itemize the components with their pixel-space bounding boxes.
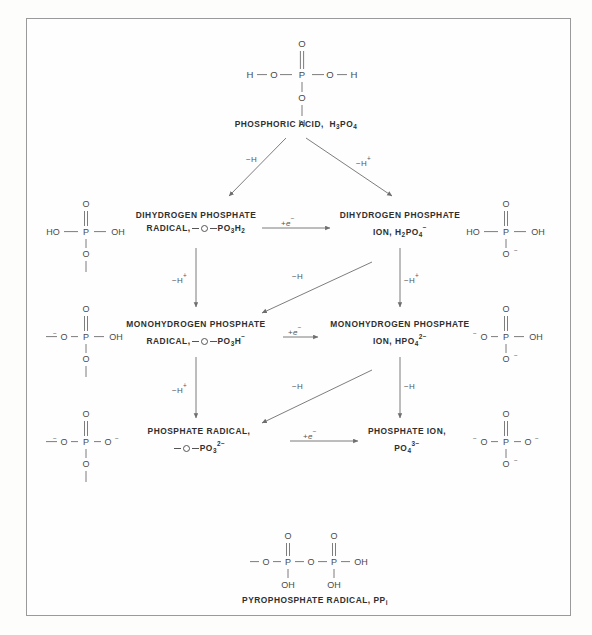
monohydrogen-radical-line2: RADICAL,	[147, 336, 191, 346]
atom-oh-left: HO	[46, 227, 60, 237]
atom-o-top: O	[502, 304, 509, 314]
edge-label-electron-row2: +e−	[288, 324, 302, 337]
label-monohydrogen-phosphate-ion: MONOHYDROGEN PHOSPHATE ION, HPO42−	[318, 318, 482, 350]
atom-o-top: O	[82, 199, 89, 209]
structure-dihydrogen-phosphate-radical: O P HO OH O	[42, 196, 134, 268]
label-dihydrogen-phosphate-ion: DIHYDROGEN PHOSPHATE ION, H2PO4−	[330, 209, 470, 241]
charge-bottom: −	[514, 247, 518, 254]
atom-p-center: P	[503, 437, 509, 447]
structure-monohydrogen-phosphate-ion: O P O − OH O −	[462, 301, 554, 367]
atom-oh-left: HO	[466, 227, 480, 237]
atom-o-right: O	[104, 437, 111, 447]
atom-p-left: P	[285, 557, 291, 567]
atom-p-center: P	[503, 227, 509, 237]
atom-o-left: O	[270, 69, 277, 80]
atom-o-left: O	[60, 437, 67, 447]
edge-label-electron-row3: +e−	[303, 428, 317, 441]
atom-o-right: O	[524, 437, 531, 447]
dihydrogen-radical-line1: DIHYDROGEN PHOSPHATE	[136, 210, 257, 220]
atom-o-bottom: O	[82, 249, 89, 259]
radical-dot-icon	[183, 445, 190, 452]
atom-h-right: H	[351, 69, 358, 80]
phosphoric-acid-formula: H3PO4	[327, 119, 358, 129]
edge-label-deprot-right-row1: −H+	[404, 272, 419, 285]
phosphate-ion-line1: PHOSPHATE ION,	[368, 426, 446, 436]
label-monohydrogen-phosphate-radical: MONOHYDROGEN PHOSPHATE RADICAL,PO3H−	[108, 318, 284, 350]
edge-label-top-left: −H	[246, 155, 257, 164]
label-phosphate-ion: PHOSPHATE ION, PO43−	[352, 425, 462, 457]
atom-p-center: P	[83, 437, 89, 447]
atom-o-bottom: O	[502, 249, 509, 259]
charge-left: −	[53, 435, 57, 442]
label-dihydrogen-phosphate-radical: DIHYDROGEN PHOSPHATE RADICAL,PO3H2	[116, 209, 276, 237]
label-phosphoric-acid: PHOSPHORIC ACID, H3PO4	[196, 118, 396, 134]
atom-o-bridge: O	[307, 557, 314, 567]
dihydrogen-ion-line2: ION,	[373, 227, 392, 237]
structure-dihydrogen-phosphate-ion: O P HO OH O −	[462, 196, 554, 262]
charge-left: −	[53, 330, 57, 337]
atom-oh-right: OH	[111, 227, 125, 237]
atom-oh-right: OH	[354, 557, 368, 567]
charge-right: −	[115, 435, 119, 442]
atom-p-center: P	[83, 227, 89, 237]
structure-pyrophosphate-radical: O P O OH O O P OH OH	[250, 528, 380, 598]
atom-o-term-left: O	[262, 557, 269, 567]
charge-left: −	[473, 330, 477, 337]
edge-label-electron-row1: +e−	[281, 215, 295, 228]
atom-o-top: O	[82, 304, 89, 314]
atom-oh-right: OH	[529, 332, 543, 342]
edge-label-deprot-left-row1: −H+	[172, 272, 187, 285]
phosphoric-acid-name: PHOSPHORIC ACID,	[235, 119, 324, 129]
phosphate-radical-line1: PHOSPHATE RADICAL,	[148, 426, 251, 436]
monohydrogen-ion-line1: MONOHYDROGEN PHOSPHATE	[330, 319, 469, 329]
atom-o-bottom: O	[502, 459, 509, 469]
atom-o-top-right: O	[330, 531, 337, 541]
atom-o-bottom: O	[502, 354, 509, 364]
atom-o-bottom: O	[298, 92, 305, 103]
charge-right: −	[535, 435, 539, 442]
dihydrogen-radical-line2: RADICAL,	[147, 223, 191, 233]
monohydrogen-radical-line1: MONOHYDROGEN PHOSPHATE	[126, 319, 265, 329]
atom-h-left: H	[247, 69, 254, 80]
monohydrogen-ion-line2: ION,	[373, 336, 392, 346]
atom-p-center: P	[503, 332, 509, 342]
charge-bottom: −	[514, 352, 518, 359]
atom-oh-bottom-left: OH	[281, 580, 295, 590]
label-pyrophosphate-radical: PYROPHOSPHATE RADICAL, PPi	[210, 594, 420, 610]
structure-phosphate-ion: O P O − O − O −	[462, 406, 554, 472]
edge-label-hloss-row2: −H	[292, 382, 303, 391]
atom-o-top: O	[82, 409, 89, 419]
structure-phosphoric-acid: O P O H O H O H	[258, 36, 348, 114]
diagram-stage: O P O H O H O H PHOSPHORIC ACID, H3PO4 −…	[0, 0, 592, 635]
atom-p-right: P	[331, 557, 337, 567]
atom-o-left: O	[60, 332, 67, 342]
atom-p-center: P	[83, 332, 89, 342]
radical-dot-icon	[201, 225, 208, 232]
structure-monohydrogen-phosphate-radical: O P O − OH O	[42, 301, 134, 373]
atom-o-bottom: O	[82, 354, 89, 364]
atom-o-top-left: O	[284, 531, 291, 541]
structure-phosphate-radical: O P O − O − O	[42, 406, 134, 478]
atom-o-left: O	[480, 437, 487, 447]
label-phosphate-radical: PHOSPHATE RADICAL, PO32−	[124, 425, 274, 457]
dihydrogen-ion-line1: DIHYDROGEN PHOSPHATE	[340, 210, 461, 220]
atom-oh-bottom-right: OH	[327, 580, 341, 590]
atom-oh-right: OH	[109, 332, 123, 342]
atom-o-right: O	[326, 69, 333, 80]
edge-label-hloss-row1: −H	[292, 272, 303, 281]
charge-left: −	[473, 435, 477, 442]
atom-o-top: O	[502, 199, 509, 209]
atom-oh-right: OH	[531, 227, 545, 237]
atom-p-center: P	[299, 69, 305, 80]
atom-o-top: O	[298, 38, 305, 49]
radical-dot-icon	[201, 338, 208, 345]
atom-o-left: O	[480, 332, 487, 342]
charge-bottom: −	[514, 457, 518, 464]
edge-label-top-right: −H+	[356, 155, 371, 168]
edge-label-deprot-left-row2: −H+	[172, 382, 187, 395]
pyrophosphate-name: PYROPHOSPHATE RADICAL, PP	[242, 595, 386, 605]
atom-o-top: O	[502, 409, 509, 419]
edge-label-deprot-right-row2: −H	[404, 382, 415, 391]
atom-o-bottom: O	[82, 459, 89, 469]
